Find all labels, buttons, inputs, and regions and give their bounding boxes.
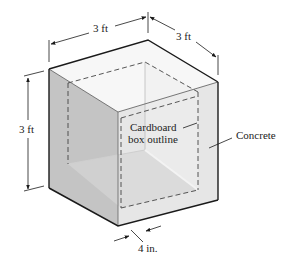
cardboard-callout-line1: Cardboard	[130, 121, 176, 133]
height-label: 3 ft	[19, 123, 34, 135]
cardboard-callout-line2: box outline	[128, 133, 178, 145]
depth-label: 3 ft	[176, 30, 191, 42]
dimension-thickness	[114, 226, 161, 242]
width-label: 3 ft	[93, 22, 108, 34]
concrete-callout: Concrete	[236, 129, 276, 141]
thickness-label: 4 in.	[138, 242, 158, 254]
